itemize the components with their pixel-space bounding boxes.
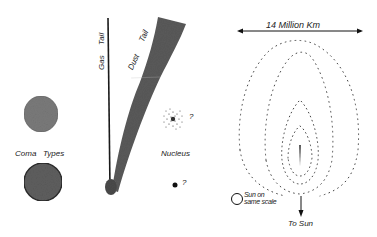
to-sun-label: To Sun [288, 220, 313, 228]
sun-scale-label-2: same scale [244, 198, 276, 205]
nucleus-label: Nucleus [161, 150, 190, 158]
nucleus-type-2 [173, 183, 178, 188]
coma-envelope-outer [239, 40, 358, 196]
coma-types-label-2: Types [43, 150, 64, 158]
nucleus-type-1 [164, 109, 183, 130]
sun-scale-label-1: Sun on [244, 191, 264, 198]
coma-type-1 [24, 96, 58, 132]
coma-envelope-middle [265, 52, 333, 194]
coma-type-2 [24, 163, 62, 201]
comet-head [105, 179, 117, 195]
coma-types-label-1: Coma [15, 150, 36, 158]
gas-tail-label-2: Tail [98, 33, 106, 45]
nucleus-question-1: ? [189, 113, 193, 121]
gas-tail-label: Gas [98, 55, 106, 70]
scale-label: 14 Million Km [266, 21, 320, 30]
dust-tail [112, 17, 186, 192]
coma-envelope-inner [282, 100, 319, 184]
nucleus-question-2: ? [182, 179, 186, 187]
sun-scale-circle [232, 194, 243, 205]
inner-tail-streak [299, 145, 301, 166]
to-sun-arrow [299, 196, 304, 217]
gas-tail [108, 18, 110, 190]
